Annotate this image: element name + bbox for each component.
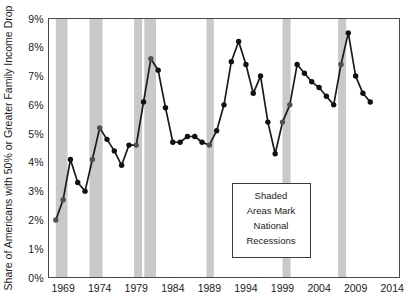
x-tick-label: 2004 [307, 282, 331, 294]
data-point-marker [229, 59, 234, 64]
data-point-marker [353, 73, 358, 78]
data-point-marker [324, 94, 329, 99]
income-drop-line-chart: 0%1%2%3%4%5%6%7%8%9% 1969197419791984198… [0, 0, 416, 300]
data-point-marker [258, 73, 263, 78]
recession-note-line-2: Areas Mark [247, 205, 296, 216]
data-point-marker [207, 142, 212, 147]
data-point-marker [68, 157, 73, 162]
data-point-marker [177, 140, 182, 145]
recession-band [206, 19, 213, 278]
data-point-marker [155, 68, 160, 73]
data-point-marker [287, 102, 292, 107]
y-tick-label: 6% [28, 99, 43, 111]
data-point-marker [185, 134, 190, 139]
data-point-marker [126, 142, 131, 147]
data-point-marker [60, 197, 65, 202]
y-tick-label: 2% [28, 214, 43, 226]
x-tick-label: 1994 [234, 282, 258, 294]
recession-note-line-1: Shaded [255, 190, 288, 201]
data-point-marker [134, 142, 139, 147]
data-point-marker [75, 180, 80, 185]
y-axis-tick-labels: 0%1%2%3%4%5%6%7%8%9% [28, 13, 43, 284]
data-point-marker [90, 157, 95, 162]
data-point-marker [243, 62, 248, 67]
data-point-marker [97, 125, 102, 130]
data-point-marker [112, 148, 117, 153]
data-point-marker [214, 128, 219, 133]
data-point-marker [141, 99, 146, 104]
data-point-marker [251, 91, 256, 96]
y-tick-label: 1% [28, 243, 43, 255]
x-tick-label: 1969 [51, 282, 75, 294]
x-axis-tick-labels: 1969197419791984198919941999200420092014 [51, 282, 404, 294]
data-point-marker [302, 70, 307, 75]
recession-band [134, 19, 142, 278]
y-tick-label: 3% [28, 185, 43, 197]
data-point-marker [331, 102, 336, 107]
data-point-marker [53, 217, 58, 222]
data-point-marker [199, 140, 204, 145]
x-tick-label: 1974 [88, 282, 112, 294]
data-point-marker [82, 188, 87, 193]
data-point-marker [346, 30, 351, 35]
data-point-marker [119, 163, 124, 168]
y-tick-label: 0% [28, 272, 43, 284]
y-tick-label: 8% [28, 41, 43, 53]
recession-band [56, 19, 68, 278]
y-tick-label: 5% [28, 128, 43, 140]
x-tick-label: 2009 [344, 282, 368, 294]
data-point-marker [170, 140, 175, 145]
data-point-marker [236, 39, 241, 44]
data-point-marker [221, 102, 226, 107]
recession-note-line-3: National [254, 220, 289, 231]
chart-canvas: 0%1%2%3%4%5%6%7%8%9% 1969197419791984198… [0, 0, 416, 300]
x-tick-label: 1984 [161, 282, 185, 294]
data-point-marker [338, 62, 343, 67]
x-tick-label: 2014 [381, 282, 405, 294]
x-tick-label: 1999 [271, 282, 295, 294]
data-point-marker [280, 119, 285, 124]
y-tick-label: 7% [28, 70, 43, 82]
data-point-marker [104, 137, 109, 142]
recession-band [89, 19, 102, 278]
data-point-marker [316, 85, 321, 90]
recession-note-annotation: Shaded Areas Mark National Recessions [233, 184, 311, 258]
y-tick-label: 9% [28, 13, 43, 25]
y-tick-label: 4% [28, 156, 43, 168]
data-point-marker [272, 151, 277, 156]
data-point-marker [368, 99, 373, 104]
data-point-marker [294, 62, 299, 67]
recession-note-line-4: Recessions [246, 235, 295, 246]
data-point-marker [309, 79, 314, 84]
data-point-marker [148, 56, 153, 61]
x-tick-label: 1979 [125, 282, 149, 294]
data-point-marker [192, 134, 197, 139]
data-point-marker [163, 105, 168, 110]
data-point-marker [360, 91, 365, 96]
y-axis-title: Share of Americans with 50% or Greater F… [2, 5, 14, 290]
x-tick-label: 1989 [198, 282, 222, 294]
data-point-marker [265, 119, 270, 124]
